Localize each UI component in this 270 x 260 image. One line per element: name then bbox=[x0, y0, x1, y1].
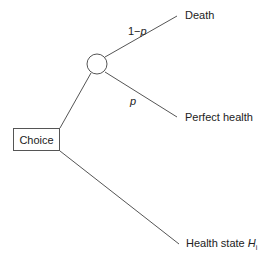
decision-node-label: Choice bbox=[19, 134, 53, 146]
outcome-death: Death bbox=[185, 9, 214, 22]
chance-node bbox=[87, 54, 107, 74]
outcome-health-state: Health state Hi bbox=[186, 237, 257, 254]
prob-label-death: 1−p bbox=[128, 25, 147, 38]
decision-node: Choice bbox=[13, 128, 60, 151]
edge-perfect-health bbox=[105, 72, 177, 117]
prob-label-perfect-health: p bbox=[130, 95, 136, 108]
edge-choice-to-chance bbox=[60, 73, 91, 128]
edge-health-state bbox=[60, 151, 179, 244]
outcome-perfect-health: Perfect health bbox=[185, 111, 253, 124]
decision-tree-diagram: Choice 1−p Death p Perfect health Health… bbox=[0, 0, 270, 260]
